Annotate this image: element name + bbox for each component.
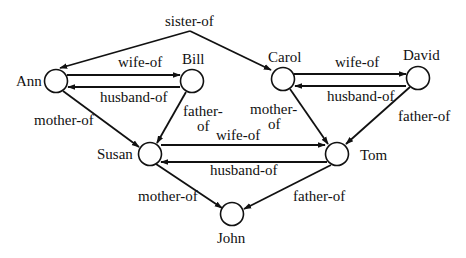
node-label-bill: Bill	[182, 51, 205, 67]
label-tom-susan-husband-of: husband-of	[210, 162, 278, 178]
node-susan: Susan	[97, 143, 162, 166]
node-label-susan: Susan	[97, 146, 133, 162]
label-bill-susan-father-of-2: of	[197, 118, 210, 134]
label-carol-david-wife-of: wife-of	[335, 54, 379, 70]
node-carol: Carol	[268, 49, 301, 91]
label-bill-ann-husband-of: husband-of	[100, 89, 168, 105]
label-susan-tom-wife-of: wife-of	[216, 127, 260, 143]
node-label-david: David	[403, 47, 440, 63]
node-tom: Tom	[326, 143, 388, 166]
label-bill-susan-father-of-1: father-	[183, 103, 223, 119]
label-susan-john-mother-of: mother-of	[138, 188, 198, 204]
node-david: David	[403, 47, 440, 90]
edge-susan-tom: wife-of husband-of	[161, 127, 327, 178]
label-carol-tom-mother-of-1: mother-	[250, 101, 297, 117]
label-ann-bill-wife-of: wife-of	[118, 54, 162, 70]
node-john: John	[217, 203, 246, 247]
label-tom-john-father-of: father-of	[293, 188, 345, 204]
edge-carol-tom: mother- of	[250, 89, 328, 144]
node-label-tom: Tom	[360, 147, 388, 163]
node-label-carol: Carol	[268, 49, 301, 65]
edge-carol-david: wife-of husband-of	[294, 54, 406, 104]
node-ann: Ann	[16, 70, 68, 93]
label-ann-susan-mother-of: mother-of	[34, 112, 94, 128]
node-bill: Bill	[181, 51, 205, 93]
label-david-tom-father-of: father-of	[398, 108, 450, 124]
family-graph: sister-of wife-of husband-of wife-of hus…	[0, 0, 466, 258]
node-label-ann: Ann	[16, 73, 42, 89]
node-label-john: John	[217, 230, 246, 246]
label-carol-tom-mother-of-2: of	[268, 116, 281, 132]
edge-sister-of: sister-of	[60, 13, 271, 70]
label-sister-of: sister-of	[165, 13, 214, 29]
label-david-carol-husband-of: husband-of	[327, 88, 395, 104]
